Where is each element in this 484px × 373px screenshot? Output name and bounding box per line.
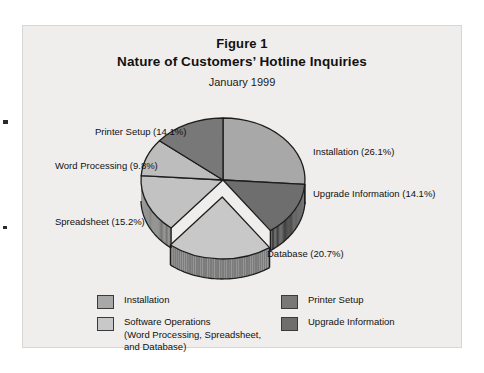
- legend-item-label: Software Operations(Word Processing, Spr…: [124, 316, 261, 354]
- legend-item[interactable]: Software Operations(Word Processing, Spr…: [97, 316, 261, 354]
- legend-swatch-icon: [281, 295, 298, 309]
- figure-title: Nature of Customers’ Hotline Inquiries: [23, 53, 461, 71]
- scan-artifact-bottom: [3, 226, 7, 229]
- pie-chart: Printer Setup (14.1%) Word Processing (9…: [23, 104, 463, 282]
- figure-number: Figure 1: [23, 36, 461, 52]
- legend-item-label: Printer Setup: [308, 294, 363, 307]
- legend-item[interactable]: Installation: [97, 294, 261, 309]
- figure-panel: Figure 1 Nature of Customers’ Hotline In…: [22, 25, 462, 348]
- callout-upgrade-information: Upgrade Information (14.1%): [313, 188, 436, 200]
- legend-column-right: Printer SetupUpgrade Information: [281, 294, 395, 338]
- callout-database: Database (20.7%): [267, 248, 344, 260]
- callout-installation: Installation (26.1%): [313, 146, 394, 158]
- legend-column-left: InstallationSoftware Operations(Word Pro…: [97, 294, 261, 361]
- figure-title-block: Figure 1 Nature of Customers’ Hotline In…: [23, 36, 461, 90]
- legend-item-label: Installation: [124, 294, 169, 307]
- legend-item-label: Upgrade Information: [308, 316, 395, 329]
- legend-swatch-icon: [281, 317, 298, 331]
- callout-word-processing: Word Processing (9.8%): [55, 160, 158, 172]
- legend-item[interactable]: Printer Setup: [281, 294, 395, 309]
- callout-printer-setup: Printer Setup (14.1%): [95, 126, 186, 138]
- figure-subtitle: January 1999: [23, 74, 461, 90]
- scan-artifact-top: [3, 120, 8, 124]
- legend-swatch-icon: [97, 295, 114, 309]
- legend-item[interactable]: Upgrade Information: [281, 316, 395, 331]
- legend-swatch-icon: [97, 317, 114, 331]
- callout-spreadsheet: Spreadsheet (15.2%): [55, 216, 145, 228]
- legend: InstallationSoftware Operations(Word Pro…: [23, 294, 463, 349]
